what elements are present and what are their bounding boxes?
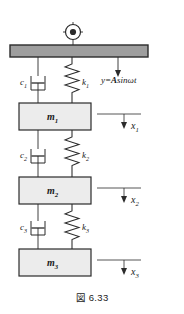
mass-label-m2: m2	[47, 185, 58, 198]
spring-label-k3: k3	[82, 223, 89, 234]
damper-label-c2: c2	[20, 151, 27, 162]
base-bar	[10, 45, 148, 57]
damper-label-c1: c1	[20, 78, 27, 89]
mass-label-m3: m3	[47, 257, 58, 270]
damper-c3	[31, 204, 45, 249]
vibration-system-diagram	[0, 0, 184, 314]
spring-label-k1: k1	[82, 78, 89, 89]
spring-k2	[65, 130, 79, 177]
damper-c2	[31, 130, 45, 177]
damper-c1	[31, 57, 45, 103]
displacement-label-x1: x1	[131, 121, 139, 134]
figure-caption: 図 6.33	[0, 290, 184, 304]
damper-label-c3: c3	[20, 223, 27, 234]
spring-k3	[65, 204, 79, 249]
displacement-label-x3: x3	[131, 267, 139, 280]
spring-k1	[65, 57, 79, 103]
mass-label-m1: m1	[47, 111, 58, 124]
excitation-label: y=Asinωt	[101, 76, 136, 85]
displacement-label-x2: x2	[131, 195, 139, 208]
base-excitation-arrow	[115, 57, 121, 77]
spring-label-k2: k2	[82, 151, 89, 162]
